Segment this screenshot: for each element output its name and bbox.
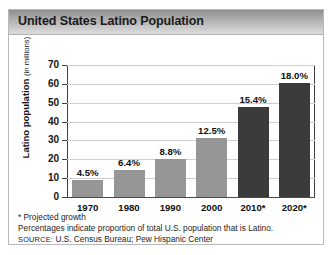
gridline bbox=[67, 65, 315, 66]
y-axis-title: Latino population (in millions) bbox=[20, 28, 31, 168]
gridline bbox=[67, 178, 315, 179]
footnotes-block: * Projected growth Percentages indicate … bbox=[18, 212, 318, 246]
source-label: Source: bbox=[18, 235, 53, 244]
bar-value-label: 15.4% bbox=[227, 94, 279, 105]
footnote-percentages: Percentages indicate proportion of total… bbox=[18, 223, 318, 234]
y-axis-tick-label: 30 bbox=[35, 135, 59, 145]
gridline bbox=[67, 197, 315, 198]
footnote-projected: * Projected growth bbox=[18, 212, 318, 223]
figure-card: United States Latino Population Latino p… bbox=[8, 9, 324, 245]
y-axis-tick-label: 70 bbox=[35, 60, 59, 70]
bar bbox=[279, 83, 310, 197]
y-axis-tick-label: 10 bbox=[35, 173, 59, 183]
plot-wrapper: Latino population (in millions) 01020304… bbox=[9, 35, 325, 210]
bar-value-label: 12.5% bbox=[186, 125, 238, 136]
gridline bbox=[67, 84, 315, 85]
bar-value-label: 4.5% bbox=[62, 167, 114, 178]
y-axis-tick-label: 50 bbox=[35, 98, 59, 108]
y-axis-tick-label: 20 bbox=[35, 154, 59, 164]
bar-value-label: 6.4% bbox=[103, 157, 155, 168]
bar bbox=[114, 170, 145, 197]
bar-value-label: 8.8% bbox=[144, 146, 196, 157]
y-axis-title-main: Latino population bbox=[20, 79, 31, 159]
y-axis-tick-label: 0 bbox=[35, 192, 59, 202]
y-axis-title-unit: (in millions) bbox=[22, 37, 31, 76]
bar bbox=[72, 180, 103, 197]
bar bbox=[155, 159, 186, 197]
chart-title-bar: United States Latino Population bbox=[9, 10, 323, 35]
gridline bbox=[67, 122, 315, 123]
source-line: Source: U.S. Census Bureau; Pew Hispanic… bbox=[18, 234, 318, 245]
gridline bbox=[67, 140, 315, 141]
y-axis-tick-label: 60 bbox=[35, 79, 59, 89]
page-title: United States Latino Population bbox=[18, 14, 204, 28]
source-text: U.S. Census Bureau; Pew Hispanic Center bbox=[55, 234, 213, 244]
bar bbox=[238, 107, 269, 197]
bar bbox=[196, 138, 227, 197]
y-axis-tick-label: 40 bbox=[35, 117, 59, 127]
bar-value-label: 18.0% bbox=[268, 70, 320, 81]
